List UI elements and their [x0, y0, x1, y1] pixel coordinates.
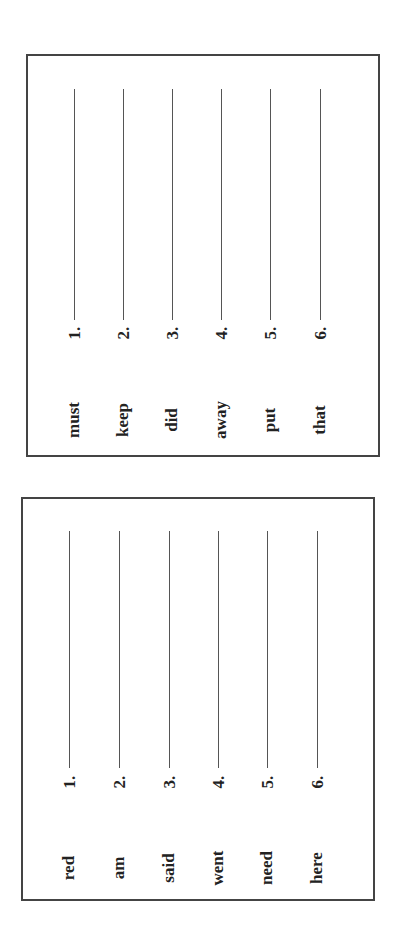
worksheet-box-1: 1.must2.keep3.did4.away5.put6.that — [26, 54, 380, 457]
answer-line[interactable] — [270, 89, 271, 320]
sight-word: am — [109, 838, 129, 898]
worksheet-box-2: 1.red2.am3.said4.went5.need6.here — [21, 497, 375, 901]
sight-word: keep — [113, 390, 133, 450]
item-number: 2. — [110, 772, 130, 792]
item-number: 6. — [308, 772, 328, 792]
item-number: 2. — [114, 323, 134, 343]
answer-line[interactable] — [218, 531, 219, 768]
sight-word: here — [307, 838, 327, 898]
answer-line[interactable] — [320, 89, 321, 320]
item-number: 5. — [261, 323, 281, 343]
answer-line[interactable] — [119, 531, 120, 768]
answer-line[interactable] — [221, 89, 222, 320]
sight-word: away — [211, 390, 231, 450]
sight-word: must — [64, 390, 84, 450]
item-number: 6. — [311, 323, 331, 343]
item-number: 1. — [60, 772, 80, 792]
sight-word: put — [260, 390, 280, 450]
answer-line[interactable] — [74, 89, 75, 320]
item-number: 5. — [258, 772, 278, 792]
item-number: 4. — [209, 772, 229, 792]
sight-word: need — [257, 838, 277, 898]
answer-line[interactable] — [267, 531, 268, 768]
item-number: 1. — [65, 323, 85, 343]
answer-line[interactable] — [169, 531, 170, 768]
sight-word: that — [310, 390, 330, 450]
sight-word: said — [159, 838, 179, 898]
sight-word: did — [162, 390, 182, 450]
answer-line[interactable] — [172, 89, 173, 320]
item-number: 4. — [212, 323, 232, 343]
sight-word: red — [59, 838, 79, 898]
sight-word: went — [208, 838, 228, 898]
item-number: 3. — [160, 772, 180, 792]
answer-line[interactable] — [69, 531, 70, 768]
answer-line[interactable] — [123, 89, 124, 320]
item-number: 3. — [163, 323, 183, 343]
answer-line[interactable] — [317, 531, 318, 768]
